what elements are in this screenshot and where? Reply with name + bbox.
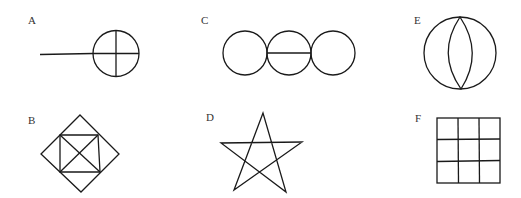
figure-f-grid-h1: [437, 139, 500, 140]
figure-a-label: A: [28, 14, 36, 26]
figure-d-star: [221, 113, 302, 192]
figure-diagram: A C E B D F: [0, 0, 521, 198]
figure-f-square: [437, 118, 500, 183]
figure-a: A: [28, 14, 139, 77]
figure-b-label: B: [28, 114, 35, 126]
figure-b: B: [28, 114, 119, 192]
figure-f-label: F: [415, 112, 421, 124]
figure-f: F: [415, 112, 500, 183]
figure-c: C: [201, 14, 355, 75]
figure-e-label: E: [414, 14, 421, 26]
figure-e: E: [414, 14, 496, 89]
figure-f-grid-h2: [437, 161, 500, 162]
figure-f-grid-v1: [458, 118, 459, 183]
figure-d: D: [206, 111, 302, 192]
figure-e-lens: [448, 17, 472, 89]
figure-c-circle-left: [223, 31, 267, 75]
figure-d-label: D: [206, 111, 214, 123]
figure-a-tail-line: [40, 54, 93, 55]
figure-f-grid-v2: [479, 118, 480, 183]
figure-c-label: C: [201, 14, 208, 26]
figure-e-circle: [424, 17, 496, 89]
figure-c-circle-right: [311, 31, 355, 75]
